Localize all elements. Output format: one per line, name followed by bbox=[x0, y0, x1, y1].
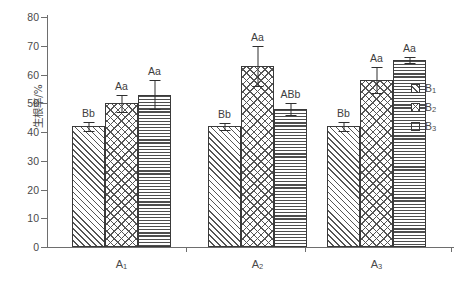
legend-item-b3[interactable]: B3 bbox=[411, 120, 461, 139]
x-axis-tick-mark bbox=[451, 247, 452, 252]
y-axis-tick-label: 20 bbox=[5, 185, 39, 195]
significance-label: Bb bbox=[218, 109, 231, 120]
y-axis-tick-label: 80 bbox=[5, 12, 39, 22]
legend-label-subscript: 3 bbox=[432, 124, 436, 133]
significance-label: ABb bbox=[281, 89, 301, 100]
y-axis-tick-label: 0 bbox=[5, 242, 39, 252]
x-axis-category-subscript: 1 bbox=[123, 262, 127, 271]
x-axis-tick-mark bbox=[305, 247, 306, 252]
x-axis-category-base: A bbox=[116, 258, 123, 270]
y-axis-tick-label: 70 bbox=[5, 41, 39, 51]
legend-swatch bbox=[411, 122, 420, 131]
significance-label: Aa bbox=[115, 81, 128, 92]
y-axis-tick-label: 30 bbox=[5, 156, 39, 166]
error-bar-cap-upper bbox=[116, 95, 127, 96]
bar bbox=[105, 103, 138, 247]
x-axis-category-label: A1 bbox=[92, 258, 152, 271]
x-axis-category-subscript: 2 bbox=[259, 262, 263, 271]
error-bar-cap-upper bbox=[338, 122, 349, 123]
significance-label: Bb bbox=[82, 108, 95, 119]
bar-column: Aa bbox=[241, 17, 274, 247]
x-axis-line bbox=[47, 247, 454, 248]
error-bar-line bbox=[224, 123, 225, 130]
error-bar-cap-upper bbox=[371, 67, 382, 68]
legend-label-base: B bbox=[425, 120, 432, 132]
error-bar-line bbox=[154, 80, 155, 109]
bar-column: Aa bbox=[138, 17, 171, 247]
error-bar-cap-lower bbox=[149, 109, 160, 110]
significance-label: Bb bbox=[337, 108, 350, 119]
error-bar-cap-upper bbox=[252, 46, 263, 47]
bar-column: Aa bbox=[360, 17, 393, 247]
x-axis-category-label: A2 bbox=[228, 258, 288, 271]
error-bar-line bbox=[290, 103, 291, 115]
significance-label: Aa bbox=[370, 53, 383, 64]
error-bar-cap-lower bbox=[371, 93, 382, 94]
error-bar-cap-upper bbox=[149, 80, 160, 81]
bar bbox=[208, 126, 241, 247]
bar-column: Bb bbox=[208, 17, 241, 247]
error-bar-cap-lower bbox=[219, 130, 230, 131]
legend-label-base: B bbox=[425, 82, 432, 94]
bar bbox=[138, 95, 171, 247]
x-axis-category-base: A bbox=[371, 258, 378, 270]
bar-column: Aa bbox=[105, 17, 138, 247]
bar-column: Bb bbox=[327, 17, 360, 247]
legend-item-b1[interactable]: B1 bbox=[411, 82, 461, 101]
legend-label: B2 bbox=[425, 101, 436, 116]
error-bar-cap-lower bbox=[404, 63, 415, 64]
chart-legend: B1B2B3 bbox=[411, 82, 461, 139]
bar-column: ABb bbox=[274, 17, 307, 247]
error-bar-cap-upper bbox=[83, 122, 94, 123]
y-axis-tick-label: 40 bbox=[5, 127, 39, 137]
legend-label-base: B bbox=[425, 101, 432, 113]
y-axis-tick-label: 60 bbox=[5, 70, 39, 80]
error-bar-cap-upper bbox=[404, 57, 415, 58]
significance-label: Aa bbox=[148, 66, 161, 77]
x-axis-category-base: A bbox=[252, 258, 259, 270]
legend-label-subscript: 1 bbox=[432, 86, 436, 95]
error-bar-cap-lower bbox=[116, 112, 127, 113]
x-axis-tick-mark bbox=[186, 247, 187, 252]
error-bar-cap-upper bbox=[285, 103, 296, 104]
error-bar-cap-lower bbox=[338, 131, 349, 132]
legend-label: B3 bbox=[425, 120, 436, 135]
y-axis-tick-label: 50 bbox=[5, 98, 39, 108]
x-axis-category-label: A3 bbox=[347, 258, 407, 271]
bar bbox=[360, 80, 393, 247]
error-bar-line bbox=[121, 95, 122, 112]
bar-column: Bb bbox=[72, 17, 105, 247]
y-axis-tick-label: 10 bbox=[5, 213, 39, 223]
x-axis-category-subscript: 3 bbox=[378, 262, 382, 271]
significance-label: Aa bbox=[403, 43, 416, 54]
legend-label: B1 bbox=[425, 82, 436, 97]
plot-area: BbAaAaBbAaABbBbAaAa bbox=[47, 17, 407, 247]
error-bar-cap-lower bbox=[252, 86, 263, 87]
error-bar-line bbox=[343, 122, 344, 131]
error-bar-line bbox=[257, 46, 258, 86]
legend-label-subscript: 2 bbox=[432, 105, 436, 114]
legend-swatch bbox=[411, 103, 420, 112]
bar bbox=[274, 109, 307, 247]
significance-label: Aa bbox=[251, 32, 264, 43]
bar-chart-figure: 生根率/% 01020304050607080 BbAaAaBbAaABbBbA… bbox=[0, 0, 461, 287]
legend-swatch bbox=[411, 84, 420, 93]
error-bar-cap-lower bbox=[285, 115, 296, 116]
bar bbox=[241, 66, 274, 247]
error-bar-line bbox=[88, 122, 89, 131]
bar bbox=[72, 126, 105, 247]
bar bbox=[327, 126, 360, 247]
error-bar-cap-upper bbox=[219, 123, 230, 124]
y-axis-tick-mark bbox=[41, 247, 47, 248]
error-bar-cap-lower bbox=[83, 131, 94, 132]
legend-item-b2[interactable]: B2 bbox=[411, 101, 461, 120]
error-bar-line bbox=[376, 67, 377, 93]
